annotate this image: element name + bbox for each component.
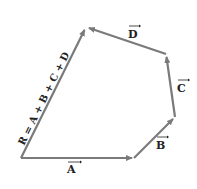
svg-text:R = A + B + C + D: R = A + B + C + D (16, 50, 72, 147)
label-r: R = A + B + C + D (16, 50, 72, 147)
label-c: C (177, 80, 186, 95)
vector-c-arrow (167, 57, 176, 117)
vector-b-arrow (134, 119, 173, 158)
svg-text:B: B (156, 139, 165, 152)
label-a: A (66, 162, 76, 176)
vector-polygon-diagram: A B C D R = A + B + C + D (0, 0, 197, 189)
svg-text:A: A (66, 163, 76, 176)
svg-text:D: D (128, 28, 138, 41)
label-b: B (156, 137, 165, 152)
label-d: D (128, 26, 138, 41)
vector-r-arrow (21, 30, 85, 158)
svg-text:C: C (177, 82, 186, 95)
